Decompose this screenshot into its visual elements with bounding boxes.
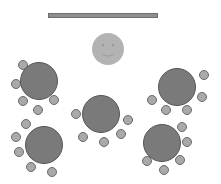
chair-1-3 [18,96,28,106]
chair-4-4 [26,162,36,172]
chair-4-5 [47,167,57,177]
table-5 [143,124,181,162]
chair-2-2 [197,92,207,102]
table-2 [158,68,196,106]
chair-5-2 [182,137,192,147]
chair-2-3 [147,95,157,105]
smiley-face-icon [92,33,124,65]
chair-2-1 [199,70,209,80]
chair-4-3 [14,147,24,157]
chair-3-3 [99,137,109,147]
chair-1-4 [33,105,43,115]
stage-bar [48,13,158,18]
table-1 [20,62,58,100]
host-smiley-icon [92,33,124,65]
chair-3-5 [123,115,133,125]
chair-3-1 [71,109,81,119]
chair-5-3 [175,155,185,165]
chair-5-1 [177,122,187,132]
chair-5-5 [159,165,169,175]
chair-4-1 [21,119,31,129]
table-3 [82,95,120,133]
chair-2-4 [161,105,171,115]
seating-diagram [0,0,221,184]
chair-4-2 [11,132,21,142]
chair-3-2 [78,132,88,142]
chair-1-5 [49,95,59,105]
chair-2-5 [182,105,192,115]
table-4 [25,126,63,164]
chair-3-4 [116,129,126,139]
